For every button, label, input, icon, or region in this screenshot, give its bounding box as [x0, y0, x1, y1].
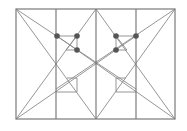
geometric-construction-diagram: [0, 0, 187, 131]
vertex-dot: [54, 33, 60, 39]
vertex-dot: [133, 33, 139, 39]
vertex-dot: [113, 47, 119, 53]
vertex-dot: [74, 47, 80, 53]
vertex-dot: [74, 33, 80, 39]
vertex-dot: [113, 33, 119, 39]
